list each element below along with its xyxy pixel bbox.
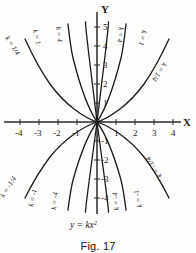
y-tick-label: -3 <box>101 174 109 184</box>
figure-container: Y X -4 -3 -2 -1 1 2 3 4 5 4 3 2 1 -1 -2 … <box>0 0 196 253</box>
y-tick-label: -1 <box>101 136 109 146</box>
curve-label-k-1-left: k = 1 <box>31 29 42 46</box>
x-tick-label: 1 <box>114 128 119 138</box>
y-tick-label: 3 <box>103 60 108 70</box>
curve-k-1-4-left <box>25 39 97 122</box>
y-tick-label: 2 <box>103 79 108 89</box>
curve-label-k-neg4-right: k = -4 <box>111 192 121 211</box>
x-tick-label: -3 <box>34 128 42 138</box>
equation-base: y = kx <box>69 220 95 230</box>
equation-label: y = kx2 <box>69 219 98 231</box>
curve-label-k-neg1-4-right: k = -1/4 <box>144 155 163 179</box>
x-tick-label: -4 <box>15 128 23 138</box>
x-tick-label: -1 <box>72 128 80 138</box>
x-tick-label: 4 <box>171 128 176 138</box>
x-tick-label: 2 <box>133 128 138 138</box>
curve-label-k-1-4-right: k = 1/4 <box>150 61 168 83</box>
y-tick-label: 1 <box>103 98 108 108</box>
curve-label-k-neg1-right: k = -1 <box>132 189 143 208</box>
equation-exponent: 2 <box>94 219 98 226</box>
x-tick-label: -2 <box>53 128 61 138</box>
curve-label-k-neg4-left: k = -4 <box>50 191 60 210</box>
curve-label-k-1-4-left: k = 1/4 <box>3 35 21 57</box>
y-axis-label: Y <box>101 3 109 15</box>
x-axis-label: X <box>183 116 191 128</box>
curve-k-4-left <box>86 22 98 122</box>
parabola-family-plot: Y X -4 -3 -2 -1 1 2 3 4 5 4 3 2 1 -1 -2 … <box>0 0 196 253</box>
y-tick-label: 4 <box>103 41 108 51</box>
figure-caption: Fig. 17 <box>0 240 196 252</box>
y-tick-label: -4 <box>101 193 109 203</box>
y-tick-label: 5 <box>103 22 108 32</box>
curve-label-k-4-right: k = 4 <box>115 27 125 43</box>
curve-label-k-4-left: k = 4 <box>54 26 64 42</box>
curve-label-k-1-right: k = 1 <box>137 30 148 47</box>
curve-label-k-neg1-4-left: k = -1/4 <box>0 175 18 199</box>
curve-labels-group: k = 1/4 k = 1 k = 4 k = 4 k = 1 k = 1/4 … <box>0 26 168 210</box>
y-tick-label: -2 <box>101 155 109 165</box>
x-tick-label: 3 <box>152 128 157 138</box>
